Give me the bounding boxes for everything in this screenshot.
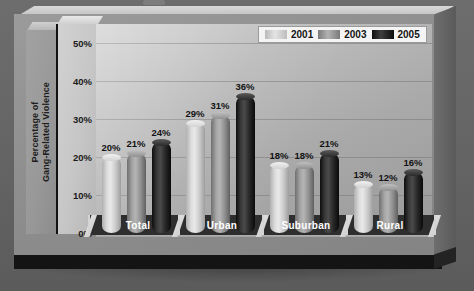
- chart-legend: 2001 2003 2005: [258, 26, 427, 43]
- bar-top-ellipse: [211, 112, 230, 119]
- gridline-40: [96, 81, 432, 82]
- series-2005-swatch: [372, 30, 394, 39]
- y-tick-30: 30%: [56, 114, 92, 125]
- y-tick-10: 10%: [56, 190, 92, 201]
- chart-figure: Percentage of Gang-Related Violence 0%10…: [0, 0, 474, 291]
- value-label-suburban-2005: 21%: [319, 138, 338, 149]
- value-label-rural-2005: 16%: [403, 157, 422, 168]
- bar-top-ellipse: [270, 162, 289, 169]
- bar-top-ellipse: [127, 150, 146, 157]
- y-axis-title: Percentage of Gang-Related Violence: [26, 30, 56, 234]
- bar-top-ellipse: [354, 181, 373, 188]
- cropped-title-fragment: [143, 0, 165, 5]
- bar-top-ellipse: [102, 154, 121, 161]
- category-label-urban: Urban: [180, 215, 264, 235]
- y-axis-panel: [56, 24, 97, 234]
- category-separator-0: [88, 215, 90, 235]
- category-separator-3: [346, 215, 348, 235]
- bar-body: [236, 96, 255, 233]
- bar-top-ellipse: [404, 169, 423, 176]
- value-label-total-2001: 20%: [101, 142, 120, 153]
- legend-item-2003: 2003: [318, 29, 366, 40]
- bar-top-ellipse: [236, 93, 255, 100]
- category-separator-end: [434, 215, 436, 235]
- series-2003-swatch: [318, 30, 340, 39]
- category-label-rural: Rural: [348, 215, 432, 235]
- category-separator-2: [262, 215, 264, 235]
- value-label-suburban-2001: 18%: [269, 150, 288, 161]
- legend-label-2003: 2003: [344, 29, 366, 40]
- category-separator-1: [178, 215, 180, 235]
- legend-item-2005: 2005: [372, 29, 420, 40]
- series-2001-swatch: [265, 30, 287, 39]
- value-label-total-2003: 21%: [126, 138, 145, 149]
- gridline-20: [96, 157, 432, 158]
- frame-base-plate: [14, 255, 442, 269]
- value-label-urban-2005: 36%: [235, 81, 254, 92]
- value-label-urban-2001: 29%: [185, 108, 204, 119]
- value-label-total-2005: 24%: [151, 127, 170, 138]
- y-tick-40: 40%: [56, 76, 92, 87]
- category-label-suburban: Suburban: [264, 215, 348, 235]
- gridline-30: [96, 119, 432, 120]
- value-label-rural-2003: 12%: [378, 172, 397, 183]
- bar-top-ellipse: [320, 150, 339, 157]
- value-label-suburban-2003: 18%: [294, 150, 313, 161]
- bar-top-ellipse: [295, 162, 314, 169]
- category-label-total: Total: [96, 215, 180, 235]
- y-tick-50: 50%: [56, 38, 92, 49]
- legend-label-2005: 2005: [398, 29, 420, 40]
- bar-top-ellipse: [152, 139, 171, 146]
- gridline-50: [96, 43, 432, 44]
- value-label-urban-2003: 31%: [210, 100, 229, 111]
- bar-top-ellipse: [186, 120, 205, 127]
- y-tick-20: 20%: [56, 152, 92, 163]
- value-label-rural-2001: 13%: [353, 169, 372, 180]
- legend-label-2001: 2001: [291, 29, 313, 40]
- legend-item-2001: 2001: [265, 29, 313, 40]
- bar-urban-2005: [236, 96, 255, 233]
